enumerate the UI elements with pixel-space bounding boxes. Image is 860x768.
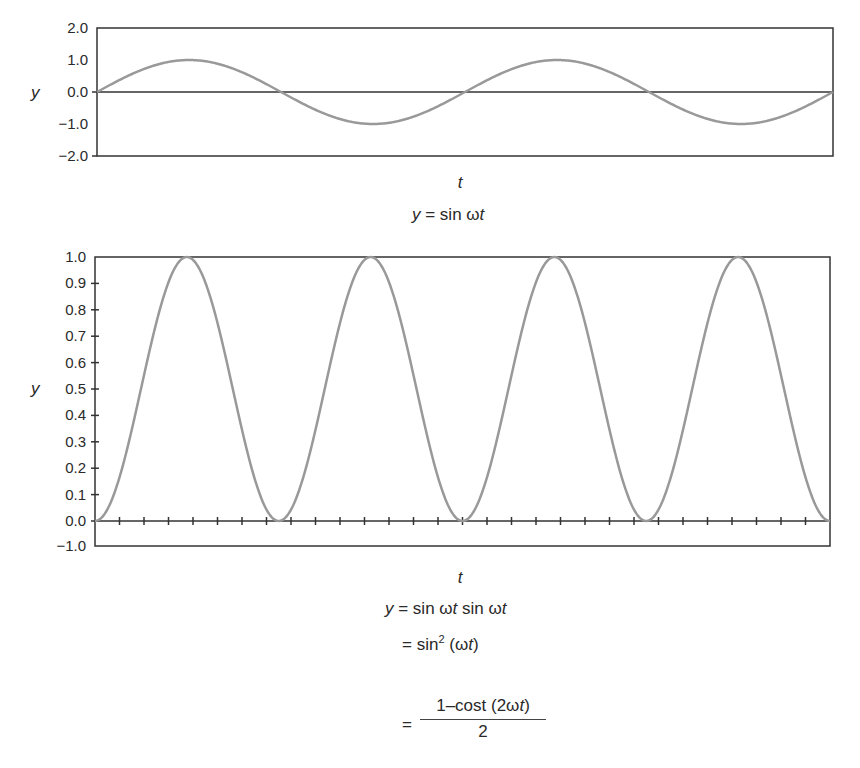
eq-part: = sin ω: [394, 599, 453, 618]
fraction-numerator: 1–cost (2ωt): [420, 696, 546, 720]
y-tick-label: −1.0: [56, 537, 86, 554]
top-equation: y = sin ωt: [412, 205, 484, 225]
y-tick-label: 1.0: [65, 248, 86, 265]
x-axis-label: t: [458, 568, 464, 587]
y-tick-label: 0.9: [65, 274, 86, 291]
eq-part: = sin: [402, 635, 438, 654]
fraction-denominator: 2: [420, 720, 546, 742]
y-tick-label: 0.5: [65, 380, 86, 397]
bottom-equation-line2: = sin2 (ωt): [402, 633, 479, 655]
y-tick-label: −1.0: [58, 115, 88, 132]
bottom-equation-line1: y = sin ωt sin ωt: [385, 599, 507, 619]
y-axis-label: y: [30, 379, 41, 398]
eq-equals: =: [402, 715, 412, 734]
eq-var: t: [480, 205, 485, 224]
y-tick-label: 0.0: [67, 83, 88, 100]
plot-frame: [95, 257, 830, 546]
y-tick-labels: 1.00.90.80.70.60.50.40.30.20.10.0−1.0: [56, 248, 86, 554]
sine-squared-chart: 1.00.90.80.70.60.50.40.30.20.10.0−1.0 y …: [30, 248, 830, 587]
eq-rhs: = sin ω: [421, 205, 480, 224]
y-tick-label: 0.7: [65, 327, 86, 344]
eq-part: 1–cost (2ω: [436, 696, 519, 715]
y-tick-label: 0.1: [65, 486, 86, 503]
sine-squared-curve: [95, 257, 830, 521]
x-axis-label: t: [458, 173, 464, 192]
y-tick-label: 2.0: [67, 19, 88, 36]
y-tick-label: 0.8: [65, 301, 86, 318]
eq-lhs: y: [412, 205, 421, 224]
y-tick-label: 1.0: [67, 51, 88, 68]
y-tick-label: −2.0: [58, 147, 88, 164]
y-tick-label: 0.4: [65, 406, 86, 423]
eq-var: t: [502, 599, 507, 618]
eq-part: (ω: [445, 635, 469, 654]
bottom-equation-fraction: 1–cost (2ωt) 2: [420, 696, 546, 742]
y-tick-labels: 2.01.00.0−1.0−2.0: [58, 19, 88, 164]
y-tick-label: 0.0: [65, 512, 86, 529]
eq-lhs: y: [385, 599, 394, 618]
y-axis-label: y: [30, 83, 41, 102]
bottom-equation-line3-equals: =: [402, 715, 412, 735]
sine-chart: 2.01.00.0−1.0−2.0 y t: [30, 19, 833, 192]
y-tick-label: 0.3: [65, 433, 86, 450]
y-tick-label: 0.2: [65, 459, 86, 476]
eq-part: ): [473, 635, 479, 654]
y-tick-label: 0.6: [65, 354, 86, 371]
eq-part: ): [524, 696, 530, 715]
eq-part: sin ω: [457, 599, 501, 618]
